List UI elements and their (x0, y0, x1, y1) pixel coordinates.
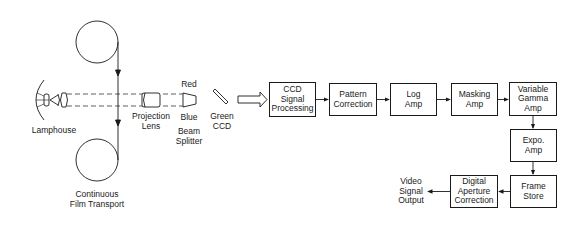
film-direction-arrow-icon (116, 70, 121, 76)
top-film-reel-icon (76, 21, 118, 63)
film-transport-label: Continuous Film Transport (66, 190, 128, 209)
digital-aperture-correction-block: Digital Aperture Correction (450, 175, 498, 208)
light-beam (67, 94, 185, 106)
variable-gamma-amp-block: Variable Gamma Amp (509, 82, 557, 116)
masking-amp-block: Masking Amp (451, 83, 498, 116)
green-ccd-label: Green CCD (208, 112, 236, 131)
log-amp-block: Log Amp (390, 83, 437, 116)
pattern-correction-block: Pattern Correction (329, 83, 377, 116)
bottom-film-reel-icon (76, 139, 118, 181)
beam-splitter-label: Beam Splitter (173, 127, 205, 146)
video-signal-output-label: Video Signal Output (394, 177, 428, 206)
beam-splitter-icon (183, 93, 196, 107)
projection-lens-icon (142, 93, 160, 107)
condenser-lens-icon (50, 95, 58, 105)
red-label: Red (178, 80, 200, 90)
hollow-arrow-icon (238, 92, 267, 107)
lamp-rays-icon (36, 93, 44, 107)
blue-label: Blue (176, 113, 202, 123)
frame-store-block: Frame Store (510, 175, 557, 208)
projection-lens-label: Projection Lens (129, 112, 173, 131)
film-direction-arrow-icon (116, 120, 121, 126)
green-ccd-plate-icon (213, 89, 228, 104)
ccd-signal-processing-block: CCD Signal Processing (269, 82, 316, 117)
lamphouse-label: Lamphouse (28, 126, 80, 136)
expo-amp-block: Expo. Amp (510, 129, 557, 162)
